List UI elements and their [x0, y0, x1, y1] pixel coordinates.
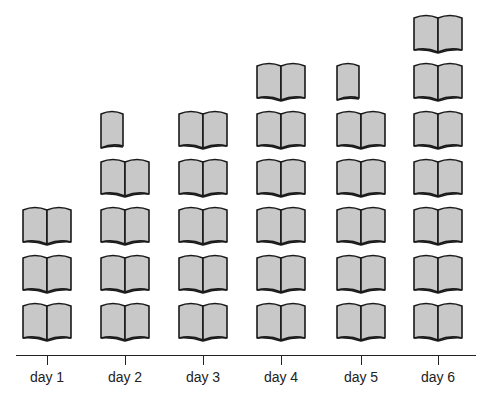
open-book-icon	[335, 110, 387, 154]
open-book-icon	[255, 206, 307, 250]
half-book-icon	[335, 62, 361, 106]
open-book-icon	[99, 158, 151, 202]
open-book-icon	[99, 302, 151, 346]
open-book-icon	[255, 62, 307, 106]
open-book-icon	[177, 110, 229, 154]
open-book-icon	[255, 254, 307, 298]
half-book-icon	[99, 110, 125, 154]
x-axis-label: day 5	[331, 369, 391, 385]
open-book-icon	[99, 254, 151, 298]
x-axis-tick	[438, 355, 439, 365]
x-axis-tick	[203, 355, 204, 365]
open-book-icon	[21, 302, 73, 346]
open-book-icon	[177, 206, 229, 250]
open-book-icon	[412, 14, 464, 58]
x-axis-label: day 1	[17, 369, 77, 385]
open-book-icon	[412, 206, 464, 250]
open-book-icon	[412, 62, 464, 106]
x-axis-tick	[281, 355, 282, 365]
open-book-icon	[255, 110, 307, 154]
open-book-icon	[335, 206, 387, 250]
open-book-icon	[412, 302, 464, 346]
x-axis-label: day 3	[173, 369, 233, 385]
open-book-icon	[177, 302, 229, 346]
open-book-icon	[335, 254, 387, 298]
open-book-icon	[412, 110, 464, 154]
open-book-icon	[335, 158, 387, 202]
x-axis-tick	[125, 355, 126, 365]
x-axis-tick	[47, 355, 48, 365]
x-axis-label: day 6	[408, 369, 468, 385]
open-book-icon	[177, 158, 229, 202]
open-book-icon	[255, 302, 307, 346]
open-book-icon	[412, 158, 464, 202]
open-book-icon	[412, 254, 464, 298]
pictograph-chart: day 1day 2day 3day 4day 5day 6	[0, 0, 487, 398]
x-axis-line	[16, 355, 476, 356]
open-book-icon	[177, 254, 229, 298]
x-axis-label: day 4	[251, 369, 311, 385]
open-book-icon	[255, 158, 307, 202]
open-book-icon	[99, 206, 151, 250]
open-book-icon	[21, 206, 73, 250]
open-book-icon	[21, 254, 73, 298]
open-book-icon	[335, 302, 387, 346]
x-axis-label: day 2	[95, 369, 155, 385]
x-axis-tick	[361, 355, 362, 365]
